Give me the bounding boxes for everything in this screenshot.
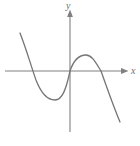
y-axis-label: y (66, 1, 70, 11)
graph-canvas (0, 0, 140, 146)
x-axis-arrowhead (121, 68, 129, 74)
cubic-function-graph-figure: y x (0, 0, 140, 146)
x-axis-label: x (131, 66, 135, 76)
